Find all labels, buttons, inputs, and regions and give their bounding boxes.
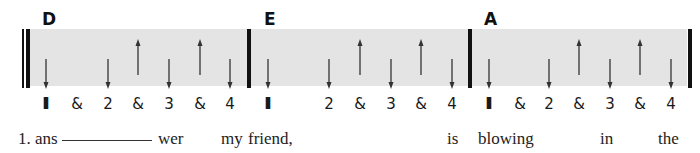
barline-thin-start bbox=[22, 29, 24, 88]
down-strum-arrow-icon bbox=[484, 59, 494, 89]
beat-count-label: 3 bbox=[159, 96, 179, 112]
beat-count-label: 4 bbox=[220, 96, 240, 112]
beat-count-label: & bbox=[510, 96, 530, 112]
chord-label: A bbox=[484, 11, 497, 28]
barline-bar bbox=[247, 29, 251, 88]
beat-count-label: 4 bbox=[442, 96, 462, 112]
chord-label: D bbox=[42, 11, 56, 28]
beat-count-label: & bbox=[411, 96, 431, 112]
beat-count-label: & bbox=[569, 96, 589, 112]
beat-count-label: & bbox=[67, 96, 87, 112]
beat-count-label: 4 bbox=[661, 96, 681, 112]
down-strum-arrow-icon bbox=[41, 59, 51, 89]
down-strum-arrow-icon bbox=[103, 59, 113, 89]
beat-count-label: 3 bbox=[381, 96, 401, 112]
lyric-syllable: in bbox=[600, 130, 613, 148]
lyric-syllable: is bbox=[447, 130, 458, 148]
lyric-syllable: blowing bbox=[478, 130, 534, 148]
beat-count-label: 3 bbox=[600, 96, 620, 112]
down-strum-arrow-icon bbox=[225, 59, 235, 89]
up-strum-arrow-icon bbox=[416, 39, 426, 75]
down-strum-arrow-icon bbox=[386, 59, 396, 89]
lyric-syllable: the bbox=[658, 130, 679, 148]
lyric-syllable: my bbox=[221, 130, 243, 148]
beat-count-label: & bbox=[128, 96, 148, 112]
lyric-extender-line bbox=[62, 140, 152, 141]
lyric-syllable: friend, bbox=[248, 130, 293, 148]
up-strum-arrow-icon bbox=[133, 39, 143, 75]
down-strum-arrow-icon bbox=[164, 59, 174, 89]
beat-count-label: 2 bbox=[98, 96, 118, 112]
down-strum-arrow-icon bbox=[447, 59, 457, 89]
beat-count-label: I bbox=[473, 96, 505, 112]
up-strum-arrow-icon bbox=[635, 39, 645, 75]
beat-count-label: & bbox=[630, 96, 650, 112]
barline-bar bbox=[468, 29, 472, 88]
beat-count-label: 2 bbox=[319, 96, 339, 112]
down-strum-arrow-icon bbox=[263, 59, 273, 89]
up-strum-arrow-icon bbox=[195, 39, 205, 75]
strum-pattern-staff: DI&2&3&4EI2&3&4AI&2&3&4 1. answermyfrien… bbox=[0, 0, 700, 153]
lyric-syllable: wer bbox=[158, 130, 183, 148]
beat-count-label: 2 bbox=[539, 96, 559, 112]
beat-count-label: & bbox=[190, 96, 210, 112]
down-strum-arrow-icon bbox=[324, 59, 334, 89]
lyric-syllable: 1. ans bbox=[18, 130, 58, 148]
beat-count-label: I bbox=[30, 96, 62, 112]
up-strum-arrow-icon bbox=[355, 39, 365, 75]
chord-label: E bbox=[264, 11, 276, 28]
down-strum-arrow-icon bbox=[666, 59, 676, 89]
down-strum-arrow-icon bbox=[544, 59, 554, 89]
beat-count-label: & bbox=[350, 96, 370, 112]
up-strum-arrow-icon bbox=[574, 39, 584, 75]
down-strum-arrow-icon bbox=[605, 59, 615, 89]
beat-count-label: I bbox=[252, 96, 284, 112]
barline-thick-start bbox=[26, 29, 30, 88]
barline-bar-end bbox=[688, 29, 692, 88]
